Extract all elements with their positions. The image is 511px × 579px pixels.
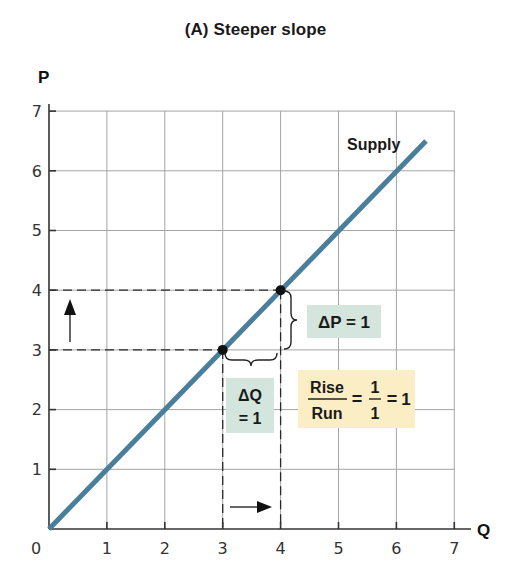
point-4-4 [276, 285, 286, 295]
up-arrow-icon [64, 299, 76, 342]
svg-text:6: 6 [391, 539, 401, 558]
equals-2: = [387, 389, 398, 409]
supply-label: Supply [347, 136, 400, 153]
svg-text:3: 3 [32, 341, 42, 360]
slope-result: 1 [401, 390, 410, 409]
svg-text:3: 3 [218, 539, 228, 558]
svg-text:2: 2 [32, 400, 42, 419]
right-arrow-icon [230, 501, 272, 513]
y-tick-labels: 7 6 5 4 3 2 1 [32, 102, 42, 479]
frac-denominator: 1 [371, 405, 380, 422]
frac-numerator: 1 [371, 379, 380, 396]
svg-text:1: 1 [102, 539, 112, 558]
svg-text:0: 0 [31, 539, 41, 558]
x-axis-label: Q [477, 521, 490, 540]
y-axis-label: P [38, 68, 49, 87]
svg-text:5: 5 [32, 221, 42, 240]
delta-p-brace [284, 291, 297, 349]
svg-text:4: 4 [276, 539, 286, 558]
delta-p-text: ΔP = 1 [318, 313, 370, 332]
rise-text: Rise [310, 379, 344, 396]
delta-q-brace [225, 353, 277, 366]
run-text: Run [311, 405, 342, 422]
equals-1: = [352, 389, 363, 409]
point-3-3 [218, 345, 228, 355]
svg-text:5: 5 [333, 539, 343, 558]
svg-text:4: 4 [32, 281, 42, 300]
svg-text:6: 6 [32, 162, 42, 181]
chart-canvas: P Q 7 6 5 4 3 2 1 0 1 2 3 4 5 6 7 Supply… [0, 0, 511, 579]
svg-text:7: 7 [449, 539, 459, 558]
svg-text:2: 2 [160, 539, 170, 558]
delta-q-text: ΔQ [238, 387, 262, 404]
svg-text:1: 1 [32, 460, 42, 479]
svg-text:7: 7 [32, 102, 42, 121]
x-tick-labels: 0 1 2 3 4 5 6 7 [31, 539, 459, 558]
delta-q-value: = 1 [239, 410, 262, 427]
